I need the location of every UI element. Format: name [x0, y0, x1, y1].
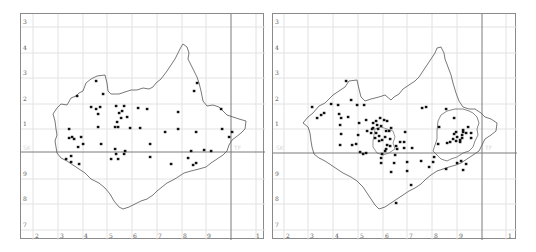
record-point [358, 122, 361, 124]
record-point [311, 106, 314, 108]
record-point [114, 148, 117, 150]
svg-text:7: 7 [158, 232, 162, 239]
record-point [82, 143, 85, 145]
svg-text:2: 2 [275, 95, 279, 102]
record-point [456, 162, 459, 164]
record-point [395, 145, 398, 147]
record-point [129, 127, 132, 129]
svg-text:2: 2 [35, 232, 39, 239]
svg-text:5: 5 [109, 232, 113, 239]
record-point [123, 153, 126, 155]
record-point [467, 126, 470, 128]
record-point [383, 119, 386, 121]
svg-text:4: 4 [84, 232, 88, 239]
record-point [137, 107, 140, 109]
record-point [425, 106, 428, 108]
record-point [330, 103, 333, 105]
record-point [403, 141, 406, 143]
distribution-map-left: 34321987 234567891 SKTF [21, 14, 265, 240]
svg-text:2: 2 [286, 232, 290, 239]
svg-text:8: 8 [23, 195, 27, 202]
record-point [345, 80, 348, 82]
record-point [461, 137, 464, 139]
svg-text:3: 3 [60, 232, 64, 239]
record-point [323, 112, 326, 114]
record-point [121, 110, 124, 112]
record-point [196, 82, 199, 84]
record-point [203, 149, 206, 151]
record-point [193, 90, 196, 92]
record-point [394, 154, 397, 156]
svg-text:TF: TF [233, 144, 242, 151]
record-point [362, 153, 365, 155]
record-point [356, 104, 359, 106]
record-point [381, 139, 384, 141]
svg-text:9: 9 [23, 170, 27, 177]
record-point [390, 127, 393, 129]
svg-text:1: 1 [256, 232, 260, 239]
record-point [372, 122, 375, 124]
record-point [462, 129, 465, 131]
record-point [465, 132, 468, 134]
record-point [115, 153, 118, 155]
record-point [102, 93, 105, 95]
record-point [370, 132, 373, 134]
record-point [395, 202, 398, 204]
svg-text:9: 9 [207, 232, 211, 239]
record-point [445, 108, 448, 110]
record-point [210, 150, 213, 152]
svg-text:3: 3 [310, 232, 314, 239]
record-point [126, 116, 129, 118]
record-point [375, 120, 378, 122]
record-point [446, 142, 449, 144]
record-point [117, 158, 120, 160]
record-point [455, 131, 458, 133]
svg-text:3: 3 [23, 69, 27, 76]
record-point [445, 168, 448, 170]
record-point [80, 136, 83, 138]
record-point [410, 184, 413, 186]
record-points [311, 80, 473, 204]
record-point [470, 132, 473, 134]
svg-text:SK: SK [276, 144, 285, 151]
svg-text:8: 8 [275, 195, 279, 202]
record-point [177, 111, 180, 113]
record-point [320, 114, 323, 116]
y-axis-labels: 34321987 [275, 18, 279, 228]
record-point [351, 144, 354, 146]
record-point [379, 117, 382, 119]
grid-lines [21, 14, 265, 240]
record-point [437, 143, 440, 145]
svg-text:2: 2 [23, 95, 27, 102]
svg-text:7: 7 [409, 232, 413, 239]
svg-text:4: 4 [23, 44, 27, 51]
record-point [124, 150, 127, 152]
svg-text:1: 1 [508, 232, 512, 239]
svg-text:3: 3 [275, 69, 279, 76]
record-point [78, 163, 81, 165]
record-point [406, 161, 409, 163]
svg-text:1: 1 [23, 120, 27, 127]
record-point [378, 135, 381, 137]
record-point [76, 95, 79, 97]
record-point [366, 130, 369, 132]
record-point [378, 140, 381, 142]
record-point [380, 157, 383, 159]
record-point [386, 120, 389, 122]
record-point [139, 127, 142, 129]
svg-text:9: 9 [275, 170, 279, 177]
record-point [149, 143, 152, 145]
record-point [359, 151, 362, 153]
record-point [149, 156, 152, 158]
record-point [347, 116, 350, 118]
record-point [363, 104, 366, 106]
record-point [420, 160, 423, 162]
record-point [428, 166, 431, 168]
record-point [97, 113, 100, 115]
record-point [396, 148, 399, 150]
record-point [95, 80, 98, 82]
record-point [170, 163, 173, 165]
svg-text:SK: SK [23, 144, 32, 151]
record-point [371, 128, 374, 130]
record-point [374, 137, 377, 139]
